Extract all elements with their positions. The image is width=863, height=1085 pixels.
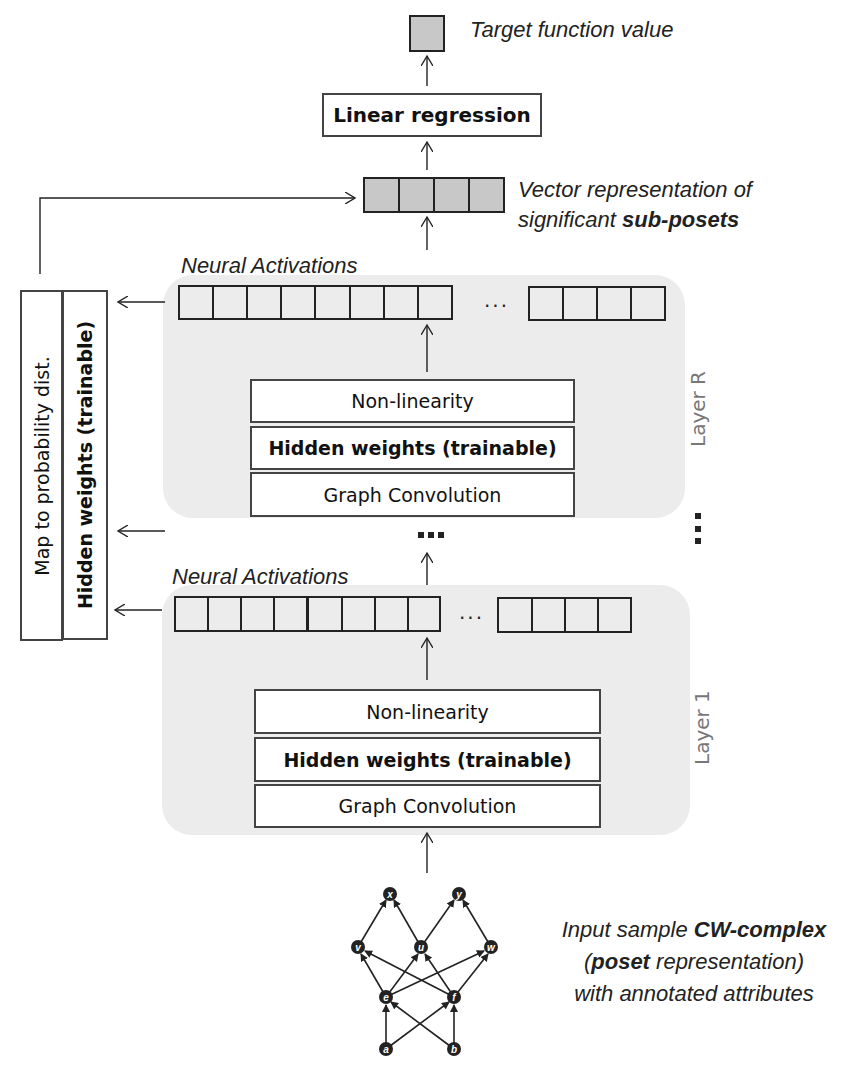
- layer-1-ellipsis: ...: [459, 600, 484, 624]
- target-function-label: Target function value: [470, 17, 673, 43]
- svg-text:e: e: [383, 992, 389, 1003]
- svg-text:b: b: [451, 1044, 457, 1055]
- activation-cell: [307, 596, 343, 632]
- activation-cell: [246, 285, 282, 320]
- activation-cell: [383, 285, 419, 320]
- layer-1-nonlinearity-box: Non-linearity: [254, 689, 601, 734]
- layer-r-ellipsis: ...: [484, 288, 509, 312]
- activation-cell: [564, 597, 599, 633]
- activation-cell: [280, 285, 316, 320]
- side-hidden-weights-box: Hidden weights (trainable): [62, 290, 108, 640]
- poset-graph-nodes: x y v u w e f a b: [351, 887, 498, 1056]
- layer-1-label: Layer 1: [690, 690, 714, 765]
- layer-r-graph-convolution-box: Graph Convolution: [250, 472, 575, 517]
- map-to-probability-label: Map to probability dist.: [31, 356, 53, 575]
- input-description: Input sample CW-complex (poset represent…: [514, 914, 863, 1010]
- activation-cell: [596, 286, 632, 321]
- ellipsis-dot: [695, 513, 701, 519]
- layer-r-hidden-weights-box: Hidden weights (trainable): [250, 426, 575, 470]
- ellipsis-dot: [418, 532, 424, 538]
- input-line1-prefix: Input sample: [562, 917, 694, 942]
- vector-cell: [433, 177, 470, 213]
- activation-cell: [174, 596, 209, 632]
- activation-cell: [528, 286, 564, 321]
- vector-label-line2-prefix: significant: [518, 207, 622, 232]
- layer-1-hidden-weights-box: Hidden weights (trainable): [254, 737, 601, 782]
- activation-cell: [417, 285, 453, 320]
- activation-cell: [374, 596, 409, 632]
- ellipsis-dot: [695, 538, 701, 544]
- side-hidden-weights-label: Hidden weights (trainable): [74, 321, 96, 609]
- activation-cell: [314, 285, 351, 320]
- svg-text:u: u: [418, 942, 424, 953]
- svg-text:y: y: [455, 889, 462, 900]
- target-value-cell: [409, 15, 445, 52]
- ellipsis-dot: [438, 532, 444, 538]
- activation-cell: [178, 285, 214, 320]
- input-line1-bold: CW-complex: [694, 917, 826, 942]
- poset-graph-edges: [358, 900, 491, 1049]
- activation-cell: [497, 597, 533, 633]
- activation-cell: [597, 597, 632, 633]
- input-line2-rest: representation): [650, 949, 804, 974]
- vector-cell: [398, 177, 435, 213]
- ellipsis-dot: [695, 526, 701, 532]
- activation-cell: [212, 285, 248, 320]
- vector-cell: [468, 177, 505, 213]
- activation-cell: [341, 596, 376, 632]
- vector-label-line2-bold: sub-posets: [622, 207, 739, 232]
- vector-label-line1: Vector representation of: [518, 177, 752, 202]
- input-line2-bold: poset: [591, 949, 650, 974]
- ellipsis-dot: [428, 532, 434, 538]
- layer-r-activations-label: Neural Activations: [181, 253, 357, 279]
- activation-cell: [349, 285, 385, 320]
- activation-cell: [207, 596, 242, 632]
- input-line3: with annotated attributes: [574, 981, 814, 1006]
- map-to-probability-box: Map to probability dist.: [20, 290, 63, 641]
- svg-text:x: x: [386, 889, 393, 900]
- svg-text:a: a: [383, 1044, 389, 1055]
- layer-r-nonlinearity-box: Non-linearity: [250, 379, 575, 423]
- activation-cell: [562, 286, 598, 321]
- vector-representation-label: Vector representation of significant sub…: [518, 175, 752, 235]
- activation-cell: [407, 596, 441, 632]
- linear-regression-box: Linear regression: [322, 93, 542, 137]
- activation-cell: [273, 596, 308, 632]
- activation-cell: [531, 597, 566, 633]
- activation-cell: [240, 596, 275, 632]
- activation-cell: [630, 286, 666, 321]
- svg-text:w: w: [487, 942, 496, 953]
- layer-1-graph-convolution-box: Graph Convolution: [254, 784, 601, 828]
- layer-r-label: Layer R: [686, 371, 710, 447]
- layer-1-activations-label: Neural Activations: [172, 564, 348, 590]
- vector-cell: [363, 177, 400, 213]
